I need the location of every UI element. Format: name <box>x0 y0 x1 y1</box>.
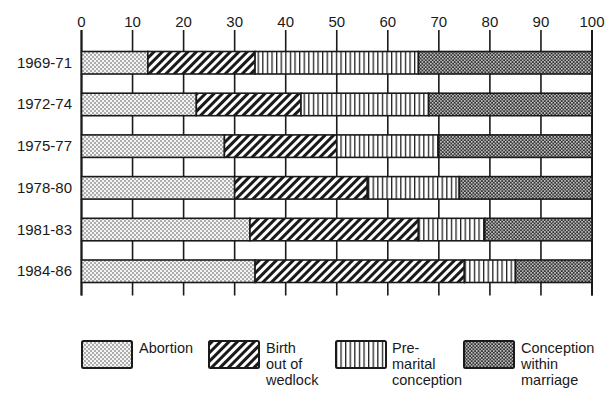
bar-segment-vertical-lines <box>367 177 459 200</box>
bar-segment-diagonal-hatch <box>196 93 301 116</box>
x-tick-label: 80 <box>482 14 499 30</box>
x-tick-label: 100 <box>579 14 604 30</box>
legend-swatch-diagonal-hatch <box>209 341 259 368</box>
bar-segment-cross-hatch <box>418 52 592 75</box>
x-tick-label: 60 <box>379 14 396 30</box>
x-tick-label: 50 <box>328 14 345 30</box>
x-tick-label: 10 <box>124 14 141 30</box>
row-label: 1984-86 <box>17 263 72 279</box>
bar-segment-dots <box>82 52 148 75</box>
bar-segment-cross-hatch <box>429 93 592 116</box>
row-label: 1975-77 <box>17 138 72 154</box>
bar-segment-diagonal-hatch <box>224 135 336 158</box>
bar-segment-dots <box>82 260 256 283</box>
x-tick-label: 70 <box>431 14 448 30</box>
bar-segment-diagonal-hatch <box>255 260 464 283</box>
x-tick-label: 30 <box>226 14 243 30</box>
bar-segment-dots <box>82 93 197 116</box>
bar-row-1981-83 <box>82 218 593 241</box>
row-label: 1972-74 <box>17 96 72 112</box>
bar-segment-diagonal-hatch <box>235 177 368 200</box>
bar-segment-cross-hatch <box>515 260 592 283</box>
x-tick-label: 90 <box>533 14 550 30</box>
legend-label: Conception within marriage <box>521 340 594 388</box>
row-label: 1981-83 <box>17 222 72 238</box>
legend-label: Abortion <box>139 340 193 356</box>
x-tick-label: 40 <box>277 14 294 30</box>
bar-row-1975-77 <box>82 135 593 158</box>
bar-row-1969-71 <box>82 52 593 75</box>
bar-segment-dots <box>82 177 235 200</box>
bar-segment-diagonal-hatch <box>250 218 418 241</box>
bar-segment-vertical-lines <box>418 218 484 241</box>
bar-segment-vertical-lines <box>301 93 429 116</box>
bar-row-1984-86 <box>82 260 593 283</box>
bar-segment-vertical-lines <box>255 52 418 75</box>
row-label: 1969-71 <box>17 55 72 71</box>
legend-label: Birth out of wedlock <box>266 340 318 388</box>
legend-swatch-dots <box>82 341 132 368</box>
x-tick-label: 20 <box>175 14 192 30</box>
legend-label: Pre- marital conception <box>392 340 462 388</box>
legend-swatch-cross-hatch <box>464 341 514 368</box>
bar-row-1978-80 <box>82 177 593 200</box>
bar-segment-diagonal-hatch <box>148 52 255 75</box>
row-label: 1978-80 <box>17 180 72 196</box>
legend-swatch-vertical-lines <box>336 341 386 368</box>
bar-segment-vertical-lines <box>337 135 439 158</box>
bar-segment-vertical-lines <box>464 260 515 283</box>
bar-row-1972-74 <box>82 93 593 116</box>
x-tick-label: 0 <box>77 14 85 30</box>
bar-segment-cross-hatch <box>459 177 592 200</box>
bar-segment-cross-hatch <box>439 135 592 158</box>
bar-segment-cross-hatch <box>485 218 592 241</box>
bar-segment-dots <box>82 218 250 241</box>
bar-segment-dots <box>82 135 225 158</box>
